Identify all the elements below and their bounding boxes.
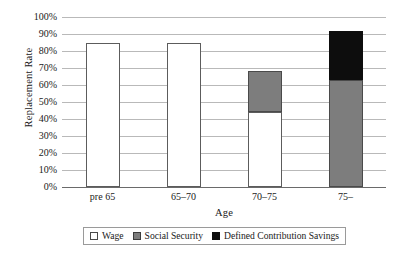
y-axis-tick-label: 20%: [39, 148, 57, 158]
x-axis-tick-label: 65–70: [171, 192, 196, 202]
y-axis-tick-label: 0%: [44, 182, 57, 192]
y-axis-tick-label: 50%: [39, 97, 57, 107]
legend-swatch-dc-icon: [212, 232, 220, 240]
legend-label: Social Security: [145, 231, 203, 241]
y-axis-tick-label: 90%: [39, 29, 57, 39]
replacement-rate-chart: Replacement Rate 0%10%20%30%40%50%60%70%…: [0, 0, 401, 259]
x-axis-title: Age: [62, 207, 386, 218]
x-axis-tick-label: 70–75: [252, 192, 277, 202]
legend-item-ss: Social Security: [133, 231, 203, 241]
bar-segment-dc: [329, 31, 363, 80]
x-axis-tick-label: 75–: [338, 192, 353, 202]
legend-label: Wage: [102, 231, 124, 241]
bar-70-75: 70–75: [248, 71, 282, 187]
bar-segment-wage: [167, 43, 201, 188]
y-axis-tick-label: 80%: [39, 46, 57, 56]
y-axis-tick-label: 70%: [39, 63, 57, 73]
y-axis-tick-label: 100%: [34, 12, 57, 22]
legend-item-wage: Wage: [90, 231, 124, 241]
y-axis-tick-label: 60%: [39, 80, 57, 90]
chart-legend: WageSocial SecurityDefined Contribution …: [83, 227, 346, 245]
x-axis-line: 0%: [62, 187, 386, 188]
y-axis-tick-label: 30%: [39, 131, 57, 141]
gridline: 100%: [62, 17, 386, 18]
y-axis-title: Replacement Rate: [23, 18, 34, 158]
legend-swatch-ss-icon: [133, 232, 141, 240]
bar-segment-wage: [248, 112, 282, 187]
x-axis-tick-label: pre 65: [90, 192, 115, 202]
bar-65-70: 65–70: [167, 43, 201, 188]
bar-segment-ss: [329, 80, 363, 187]
plot-area: 0%10%20%30%40%50%60%70%80%90%100%pre 656…: [62, 17, 386, 187]
legend-item-dc: Defined Contribution Savings: [212, 231, 339, 241]
y-axis-tick-label: 40%: [39, 114, 57, 124]
bar-segment-wage: [86, 43, 120, 188]
y-axis-tick-label: 10%: [39, 165, 57, 175]
bar-segment-ss: [248, 71, 282, 112]
bar-pre-65: pre 65: [86, 43, 120, 188]
bar-75-: 75–: [329, 31, 363, 187]
legend-label: Defined Contribution Savings: [224, 231, 339, 241]
legend-swatch-wage-icon: [90, 232, 98, 240]
